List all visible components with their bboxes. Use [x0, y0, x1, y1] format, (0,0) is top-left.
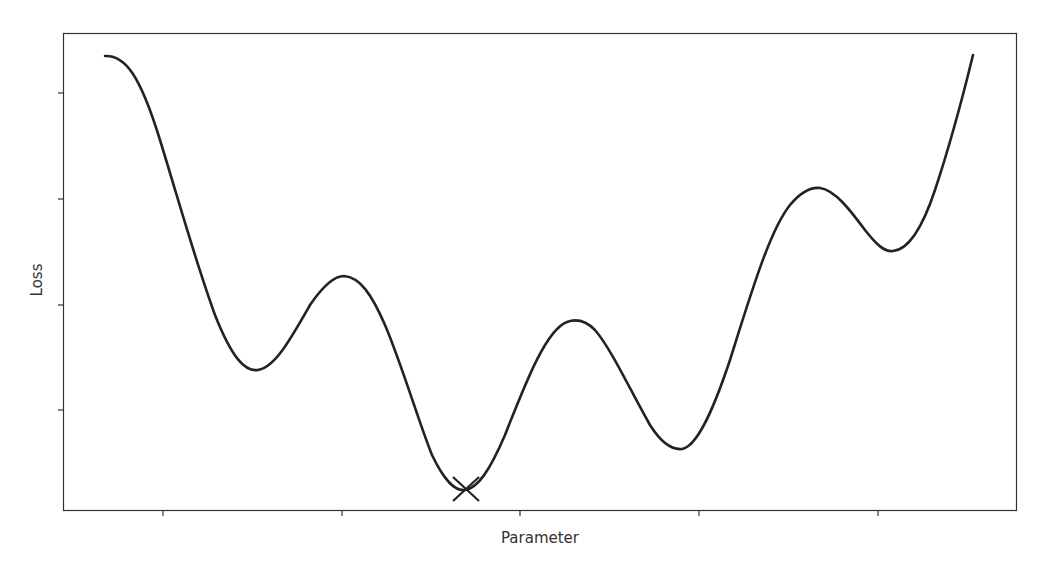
- y-axis-label: Loss: [28, 263, 46, 296]
- plot-frame: [64, 34, 1017, 511]
- x-axis-label: Parameter: [501, 529, 580, 547]
- loss-landscape-chart: Parameter Loss: [0, 0, 1043, 575]
- y-axis-ticks: [58, 93, 64, 410]
- x-axis-ticks: [163, 511, 878, 517]
